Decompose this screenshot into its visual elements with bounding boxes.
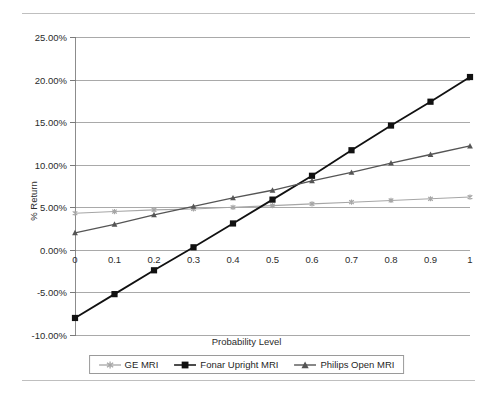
y-tick-label: 0.00% bbox=[40, 244, 67, 255]
y-axis-title: % Return bbox=[28, 181, 39, 221]
data-point-square bbox=[348, 147, 354, 153]
series-1 bbox=[72, 74, 473, 321]
series-2 bbox=[72, 143, 473, 235]
legend-item-1[interactable]: Fonar Upright MRI bbox=[174, 359, 278, 370]
y-tick-label: -10.00% bbox=[32, 330, 67, 341]
y-tick-label: 25.00% bbox=[35, 32, 67, 43]
plot-area: -10.00%-5.00%0.00%5.00%10.00%15.00%20.00… bbox=[75, 37, 470, 335]
data-point-square bbox=[230, 220, 236, 226]
legend-item-0[interactable]: GE MRI bbox=[99, 359, 159, 370]
y-tick-label: 15.00% bbox=[35, 117, 67, 128]
gridline bbox=[75, 335, 470, 336]
chart-legend: GE MRI Fonar Upright MRI Philips Open MR… bbox=[89, 355, 405, 374]
data-point-square bbox=[190, 244, 196, 250]
chart-canvas: % Return Probability Level -10.00%-5.00%… bbox=[0, 0, 493, 401]
y-tick-label: 20.00% bbox=[35, 74, 67, 85]
series-lines-group bbox=[75, 37, 470, 335]
y-tick-label: -5.00% bbox=[37, 287, 67, 298]
x-axis-title: Probability Level bbox=[0, 336, 493, 347]
data-point-square bbox=[72, 315, 78, 321]
figure-root: % Return Probability Level -10.00%-5.00%… bbox=[0, 0, 493, 401]
data-point-square bbox=[151, 267, 157, 273]
legend-label-2: Philips Open MRI bbox=[321, 359, 395, 370]
legend-label-0: GE MRI bbox=[125, 359, 159, 370]
data-point-square bbox=[467, 74, 473, 80]
legend-item-2[interactable]: Philips Open MRI bbox=[295, 359, 395, 370]
legend-marker-star-icon bbox=[99, 360, 121, 370]
legend-label-1: Fonar Upright MRI bbox=[200, 359, 278, 370]
y-tick-label: 10.00% bbox=[35, 159, 67, 170]
legend-marker-triangle-icon bbox=[295, 360, 317, 370]
data-point-square bbox=[111, 291, 117, 297]
legend-marker-square-icon bbox=[174, 360, 196, 370]
y-axis-tick bbox=[70, 335, 76, 336]
data-point-square bbox=[427, 99, 433, 105]
data-point-triangle bbox=[467, 143, 473, 148]
data-point-square bbox=[269, 197, 275, 203]
y-tick-label: 5.00% bbox=[40, 202, 67, 213]
data-point-square bbox=[388, 122, 394, 128]
